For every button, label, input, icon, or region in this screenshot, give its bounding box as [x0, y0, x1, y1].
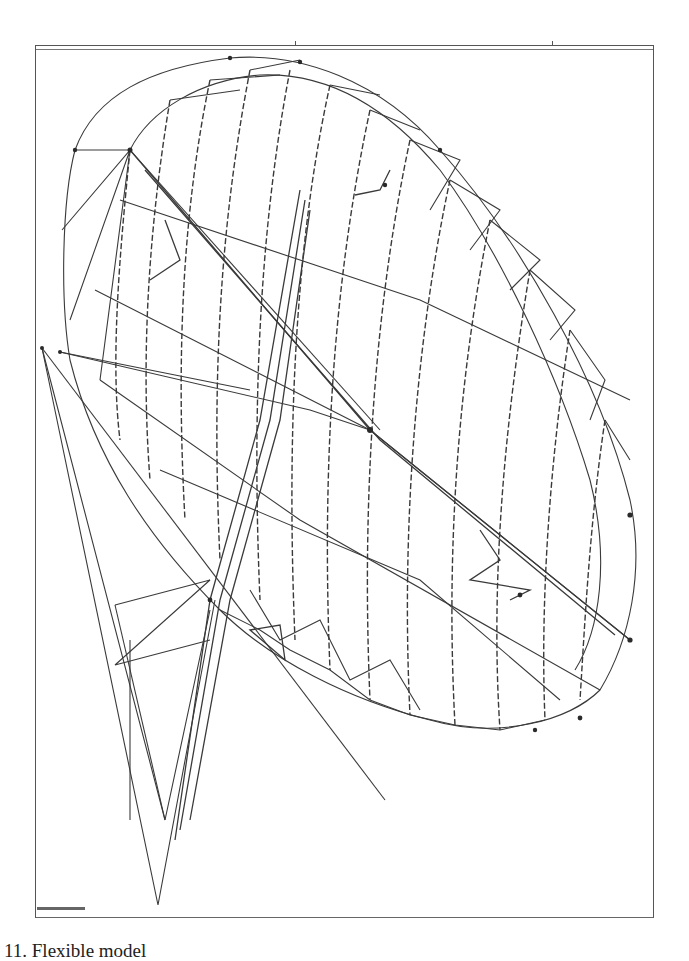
dish-ribs [116, 70, 605, 730]
dish-chords [95, 150, 630, 700]
figure-caption: 11. Flexible model [4, 940, 146, 961]
support-legs [42, 348, 385, 905]
feed-support-boom [130, 150, 630, 840]
rim-bracing [62, 60, 630, 730]
corner-label [37, 907, 85, 910]
dish-rim [64, 57, 636, 728]
